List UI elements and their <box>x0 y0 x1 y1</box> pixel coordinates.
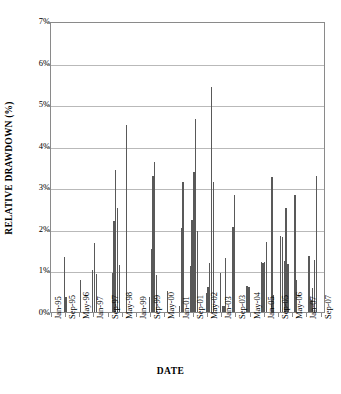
x-tick-mark <box>193 313 194 317</box>
x-tick-label: Jan-99 <box>139 296 148 319</box>
x-tick-mark <box>108 313 109 317</box>
y-tick-label: 0% <box>6 308 50 317</box>
y-tick-label: 4% <box>6 142 50 151</box>
x-tick-label: Jan-97 <box>96 296 105 319</box>
x-axis-title: DATE <box>0 366 341 376</box>
x-tick-mark <box>51 313 52 317</box>
x-tick-label: Sep-97 <box>111 295 120 319</box>
x-tick-mark <box>122 313 123 317</box>
x-tick-label: Sep-01 <box>196 295 205 319</box>
x-tick-label: Jan-95 <box>54 296 63 319</box>
relative-drawdown-chart: RELATIVE DRAWDOWN (%) 0%1%2%3%4%5%6%7% J… <box>0 0 341 394</box>
x-tick-mark <box>179 313 180 317</box>
y-tick-label: 1% <box>6 266 50 275</box>
x-tick-mark <box>278 313 279 317</box>
x-tick-mark <box>321 313 322 317</box>
bar <box>182 182 183 312</box>
x-tick-label: Jan-05 <box>267 296 276 319</box>
x-tick-label: May-96 <box>82 292 91 319</box>
y-tick-label: 7% <box>6 17 50 26</box>
gridline <box>51 65 324 66</box>
bar <box>126 125 127 312</box>
bar <box>316 176 317 312</box>
y-tick-label: 3% <box>6 183 50 192</box>
x-tick-label: Jan-01 <box>182 296 191 319</box>
x-tick-label: Sep-05 <box>281 295 290 319</box>
gridline <box>51 148 324 149</box>
x-tick-mark <box>136 313 137 317</box>
x-tick-label: May-06 <box>295 292 304 319</box>
gridline <box>51 106 324 107</box>
x-tick-label: Sep-07 <box>324 295 333 319</box>
x-tick-label: Jan-03 <box>224 296 233 319</box>
y-axis-ticks: 0%1%2%3%4%5%6%7% <box>0 0 50 394</box>
gridline <box>51 231 324 232</box>
x-tick-mark <box>250 313 251 317</box>
x-tick-label: Sep-95 <box>68 295 77 319</box>
plot-area <box>50 22 325 313</box>
x-tick-label: May-00 <box>167 292 176 319</box>
x-tick-label: May-04 <box>253 292 262 319</box>
x-tick-label: Jan-07 <box>309 296 318 319</box>
x-tick-label: Sep-03 <box>238 295 247 319</box>
bar <box>271 177 272 312</box>
x-tick-mark <box>207 313 208 317</box>
y-tick-label: 6% <box>6 59 50 68</box>
x-tick-mark <box>65 313 66 317</box>
bar <box>234 195 235 312</box>
x-tick-label: May-98 <box>125 292 134 319</box>
x-tick-label: May-02 <box>210 292 219 319</box>
x-axis-ticks: Jan-95Sep-95May-96Jan-97Sep-97May-98Jan-… <box>50 313 325 373</box>
x-tick-label: Sep-99 <box>153 295 162 319</box>
gridline <box>51 189 324 190</box>
x-tick-mark <box>264 313 265 317</box>
y-tick-label: 5% <box>6 100 50 109</box>
bar <box>248 287 249 312</box>
y-tick-label: 2% <box>6 225 50 234</box>
